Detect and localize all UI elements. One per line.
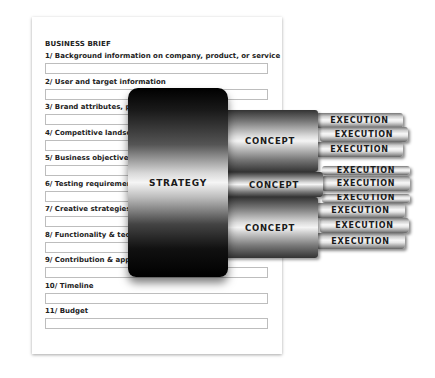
- brief-row-field: [45, 63, 268, 74]
- brief-row-label: 6/ Testing requirement: [45, 180, 135, 188]
- concept-cylinder: CONCEPT: [225, 172, 323, 197]
- concept-cylinder: CONCEPT: [222, 110, 318, 172]
- execution-cylinder: EXECUTION: [316, 203, 405, 218]
- brief-row-label: 1/ Background information on company, pr…: [45, 52, 280, 60]
- strategy-cylinder: STRATEGY: [128, 88, 228, 277]
- brief-row-label: 8/ Functionality & techn: [45, 231, 140, 239]
- execution-cylinder: EXECUTION: [322, 176, 410, 191]
- brief-row-label: 11/ Budget: [45, 307, 88, 315]
- brief-row-label: 9/ Contribution & appro: [45, 256, 139, 264]
- execution-cylinder: EXECUTION: [316, 142, 403, 157]
- brief-row-label: 4/ Competitive landsca: [45, 129, 135, 137]
- brief-row-field: [45, 318, 268, 329]
- concept-cylinder: CONCEPT: [222, 197, 318, 258]
- brief-row-label: 2/ User and target information: [45, 78, 166, 86]
- execution-cylinder: EXECUTION: [322, 166, 410, 175]
- brief-row-label: 7/ Creative strategies: [45, 205, 131, 213]
- brief-row-label: 5/ Business objectives a: [45, 154, 140, 162]
- execution-cylinder: EXECUTION: [320, 218, 409, 233]
- execution-cylinder: EXECUTION: [320, 127, 408, 142]
- execution-cylinder: EXECUTION: [322, 194, 410, 203]
- brief-row-label: 3/ Brand attributes, pro: [45, 103, 139, 111]
- brief-row-field: [45, 293, 268, 304]
- execution-cylinder: EXECUTION: [316, 113, 403, 128]
- brief-title: BUSINESS BRIEF: [45, 40, 111, 48]
- execution-cylinder: EXECUTION: [316, 233, 405, 249]
- brief-row-label: 10/ Timeline: [45, 282, 93, 290]
